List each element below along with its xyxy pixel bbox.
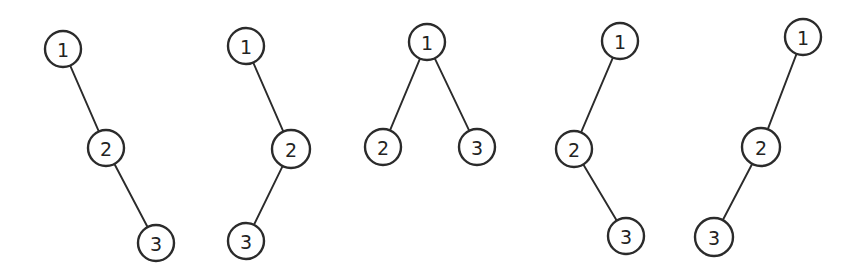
node-label: 2 [568,139,580,161]
node-label: 3 [240,231,252,253]
node-label: 2 [377,137,389,159]
node-label: 3 [471,137,483,159]
tree-edge [253,62,284,133]
tree-node: 2 [88,130,124,166]
node-label: 1 [57,39,69,61]
node-label: 3 [620,226,632,248]
node-label: 3 [150,233,162,255]
tree-edge [253,165,283,226]
binary-trees-canvas: 123123123123123 [0,0,865,275]
tree-node: 1 [785,19,821,55]
binary-tree-figure: 123123123123123 [0,0,865,275]
tree-node: 3 [695,218,733,256]
node-label: 1 [421,32,433,54]
tree-1: 123 [45,31,174,261]
tree-node: 1 [602,23,638,59]
tree-edge [581,57,614,134]
tree-node: 1 [409,24,445,60]
node-label: 1 [240,36,252,58]
tree-node: 3 [459,129,495,165]
tree-node: 3 [228,223,264,259]
node-label: 2 [100,138,112,160]
node-label: 2 [755,137,767,159]
tree-node: 2 [365,129,401,165]
tree-edge [390,58,421,132]
tree-node: 3 [608,218,644,254]
tree-5: 123 [695,19,821,256]
node-label: 2 [285,139,297,161]
tree-edge [583,164,618,222]
tree-node: 2 [742,128,780,166]
tree-node: 2 [272,130,310,168]
node-label: 1 [614,31,626,53]
tree-node: 3 [138,225,174,261]
tree-node: 2 [556,131,592,167]
tree-edge [722,163,752,221]
tree-edge [114,163,148,228]
tree-2: 123 [228,28,310,259]
tree-4: 123 [556,23,644,254]
tree-node: 1 [45,31,81,67]
tree-edge [767,53,797,130]
tree-edge [70,65,99,133]
node-label: 3 [708,227,720,249]
node-label: 1 [797,27,809,49]
tree-3: 123 [365,24,495,165]
tree-node: 1 [228,28,264,64]
tree-edge [434,57,469,131]
